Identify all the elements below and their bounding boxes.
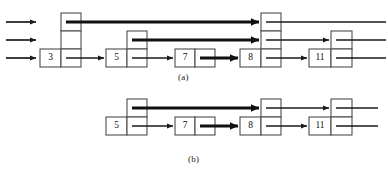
node-11-key-label: 11 [309, 52, 331, 62]
node-b-11-key-label: 11 [309, 120, 331, 130]
node-3-key-label: 3 [40, 52, 61, 62]
node-5-key-label: 5 [106, 52, 127, 62]
node-8-key-label: 8 [240, 52, 261, 62]
node-b-8-key-label: 8 [240, 120, 261, 130]
node-3-pointer-level-2 [61, 31, 81, 49]
panel-a-caption: (a) [178, 72, 189, 82]
panel-a-entry-arrows [6, 22, 36, 58]
skip-list-canvas [0, 0, 388, 175]
panel-b-caption: (b) [188, 154, 199, 164]
node-b-5-key-label: 5 [106, 120, 127, 130]
node-b-7-key-label: 7 [175, 120, 195, 130]
skip-list-figure: 3 5 7 8 11 5 7 8 11 (a) (b) [0, 0, 388, 175]
node-7-key-label: 7 [175, 52, 195, 62]
